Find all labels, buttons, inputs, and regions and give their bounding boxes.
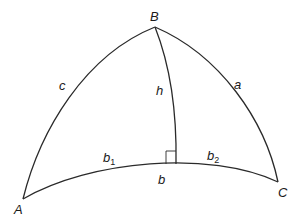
vertex-label-c: C (278, 185, 288, 200)
side-label-b: b (158, 172, 165, 187)
side-label-h: h (156, 83, 163, 98)
segment-label-b1-main: b (103, 150, 110, 165)
segment-label-b2: b2 (207, 148, 219, 165)
segment-label-b1: b1 (103, 150, 115, 167)
vertex-label-a: A (13, 202, 23, 217)
spherical-triangle-diagram: B A C c h a b b1 b2 (0, 0, 305, 222)
segment-label-b1-sub: 1 (110, 157, 115, 167)
side-label-c: c (59, 78, 66, 93)
segment-label-b2-main: b (207, 148, 214, 163)
segment-label-b2-sub: 2 (214, 155, 219, 165)
side-b-arc (23, 163, 278, 199)
side-label-a: a (234, 77, 241, 92)
vertex-label-b: B (150, 9, 159, 24)
right-angle-marker (166, 151, 176, 164)
